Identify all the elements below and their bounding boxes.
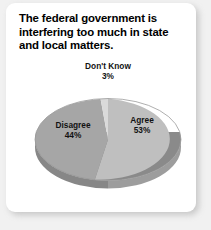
page-title-line-1: The federal government is bbox=[19, 12, 185, 26]
screenshot-root: The federal government is interfering to… bbox=[0, 0, 211, 230]
page-title-line-3: and local matters. bbox=[19, 39, 185, 53]
pie-label-disagree-value: 44% bbox=[65, 130, 82, 140]
pie-label-dont-know-name: Don't Know bbox=[85, 61, 131, 71]
pie-label-agree-value: 53% bbox=[134, 125, 151, 135]
pie-label-dont-know: Don't Know 3% bbox=[62, 61, 154, 82]
pie-label-disagree: Disagree 44% bbox=[42, 120, 104, 141]
page-title: The federal government is interfering to… bbox=[19, 12, 185, 53]
chart-card: The federal government is interfering to… bbox=[6, 3, 196, 212]
pie-label-agree: Agree 53% bbox=[118, 115, 166, 136]
pie-label-dont-know-value: 3% bbox=[102, 71, 114, 81]
pie-chart: Don't Know 3% Agree 53% Disagree 44% bbox=[6, 55, 196, 205]
pie-label-disagree-name: Disagree bbox=[55, 120, 90, 130]
page-title-line-2: interfering too much in state bbox=[19, 26, 185, 40]
pie-label-agree-name: Agree bbox=[130, 115, 154, 125]
